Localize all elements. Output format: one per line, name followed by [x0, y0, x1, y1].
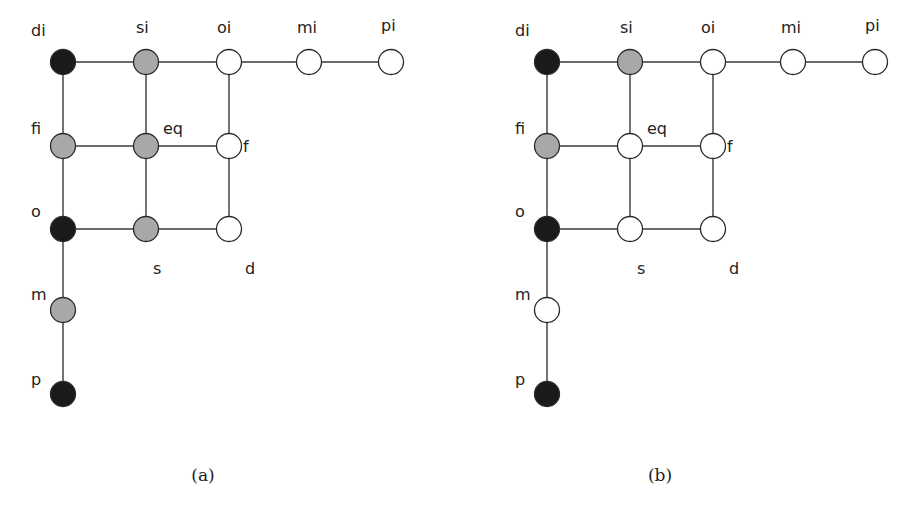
node-label-m: m: [515, 285, 531, 304]
node-label-eq: eq: [647, 119, 667, 138]
node-f: [217, 134, 242, 159]
node-eq: [618, 134, 643, 159]
node-label-mi: mi: [297, 18, 317, 37]
node-label-d: d: [245, 259, 255, 278]
node-mi: [781, 50, 806, 75]
node-label-mi: mi: [781, 18, 801, 37]
node-label-oi: oi: [217, 18, 231, 37]
node-d: [217, 217, 242, 242]
node-label-s: s: [153, 259, 161, 278]
node-fi: [535, 134, 560, 159]
node-d: [701, 217, 726, 242]
node-label-p: p: [515, 370, 525, 389]
node-label-si: si: [620, 18, 633, 37]
node-si: [618, 50, 643, 75]
node-label-m: m: [31, 285, 47, 304]
node-label-p: p: [31, 370, 41, 389]
node-di: [535, 50, 560, 75]
node-label-fi: fi: [515, 119, 525, 138]
node-oi: [217, 50, 242, 75]
node-label-o: o: [515, 202, 525, 221]
node-pi: [863, 50, 888, 75]
caption-b: (b): [648, 465, 672, 485]
node-label-pi: pi: [865, 16, 880, 35]
node-label-di: di: [515, 21, 530, 40]
node-mi: [297, 50, 322, 75]
node-label-fi: fi: [31, 119, 41, 138]
node-label-di: di: [31, 21, 46, 40]
node-m: [51, 298, 76, 323]
node-label-f: f: [243, 137, 249, 156]
node-si: [134, 50, 159, 75]
node-f: [701, 134, 726, 159]
node-m: [535, 298, 560, 323]
caption-a: (a): [191, 465, 214, 485]
node-fi: [51, 134, 76, 159]
node-p: [535, 382, 560, 407]
node-o: [51, 217, 76, 242]
node-p: [51, 382, 76, 407]
node-label-pi: pi: [381, 16, 396, 35]
node-label-si: si: [136, 18, 149, 37]
node-oi: [701, 50, 726, 75]
interval-lattice-diagram: disioimipifieqfosdmp disioimipifieqfosdm…: [0, 0, 909, 510]
node-pi: [379, 50, 404, 75]
node-eq: [134, 134, 159, 159]
node-label-eq: eq: [163, 119, 183, 138]
node-label-d: d: [729, 259, 739, 278]
node-label-s: s: [637, 259, 645, 278]
panel-a: disioimipifieqfosdmp: [31, 16, 404, 407]
panel-b: disioimipifieqfosdmp: [515, 16, 888, 407]
node-label-o: o: [31, 202, 41, 221]
node-label-f: f: [727, 137, 733, 156]
node-s: [618, 217, 643, 242]
node-s: [134, 217, 159, 242]
node-di: [51, 50, 76, 75]
node-o: [535, 217, 560, 242]
node-label-oi: oi: [701, 18, 715, 37]
